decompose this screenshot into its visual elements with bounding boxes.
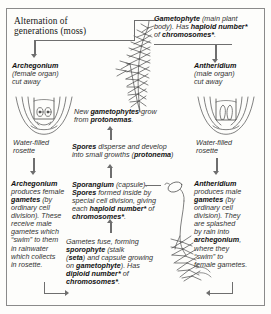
title-to-archegonium-arrow-shaft — [34, 40, 36, 55]
archegonium-sub2: cut away — [12, 78, 84, 86]
antheridium-sub2: cut away — [194, 78, 266, 86]
new-gametophytes-l1c: grow — [139, 107, 157, 116]
archegonium-to-sporophyte-h — [44, 293, 66, 294]
sporophyte-l6b: . — [118, 277, 120, 286]
arrow-up-icon — [107, 126, 113, 130]
gametophyte-bracket-h — [154, 44, 232, 45]
gametophyte-line3c: . — [214, 30, 216, 39]
sporangium-l5b: . — [124, 212, 126, 221]
antheridium-top-label: Antheridium (male organ) cut away — [194, 62, 266, 86]
new-gametophytes-text: New gametophytes grow from protonemas. — [74, 108, 186, 124]
figure-page: Alternation of generations (moss) — [0, 0, 271, 314]
sporophyte-l5b: of — [121, 269, 129, 278]
page-rule-left — [6, 8, 7, 306]
protonemas-term: protonemas — [90, 115, 131, 124]
sporophyte-to-sporangium-arrow-shaft — [110, 222, 112, 233]
title-bracket-h — [34, 40, 135, 41]
new-gametophytes-l2c: . — [132, 115, 134, 124]
arrow-down-icon — [30, 171, 36, 175]
gametophyte-label: Gametophyte (main plant body). Has haplo… — [154, 15, 268, 39]
arrow-up-icon — [107, 219, 113, 223]
arrow-up-icon — [107, 164, 113, 168]
arrow-right-icon — [65, 290, 69, 296]
archegonium-top-label: Archegonium (female organ) cut away — [12, 62, 84, 86]
antheridium-illustration — [195, 92, 257, 136]
sporophyte-text: Gametes fuse, forming sporophyte (stalk … — [66, 238, 184, 286]
rosette-to-antheridium-detail-arrow-shaft — [216, 158, 218, 172]
sporangium-chromosomes: chromosomes* — [72, 212, 124, 221]
page-rule-top — [6, 8, 265, 9]
antheridium-to-sporophyte-h — [210, 293, 233, 294]
spores-l2c: ) — [171, 150, 173, 159]
archegonium-illustration — [13, 92, 75, 136]
new-gametophytes-l2a: from — [74, 115, 90, 124]
rosette-right-label: Water-filled rosette — [196, 139, 266, 155]
title-bracket-v-right — [134, 22, 135, 41]
gametophyte-to-antheridium-arrow-shaft — [215, 44, 217, 60]
spores-to-gametophytes-arrow-shaft — [110, 129, 112, 140]
gametophyte-line3a: of — [154, 30, 162, 39]
rosette-right-line2: rosette — [196, 147, 266, 155]
spores-l2a: into small growths ( — [72, 150, 134, 159]
sporangium-to-spores-arrow-shaft — [110, 167, 112, 178]
arrow-down-icon — [31, 54, 37, 58]
arrow-down-icon — [213, 171, 219, 175]
gametophyte-leader-line — [134, 20, 155, 21]
spores-text: Spores disperse and develop into small g… — [72, 143, 198, 159]
rosette-to-archegonium-detail-arrow-shaft — [33, 158, 35, 172]
gametophyte-chromosomes: chromosomes* — [162, 30, 214, 39]
sporangium-l4c: of — [146, 204, 154, 213]
page-rule-bottom — [6, 305, 265, 306]
protonema-term: protonema — [134, 150, 171, 159]
arrow-left-icon — [206, 290, 210, 296]
antheridium-detail-l8b: , — [239, 235, 241, 244]
sporophyte-chromosomes: chromosomes* — [66, 277, 118, 286]
